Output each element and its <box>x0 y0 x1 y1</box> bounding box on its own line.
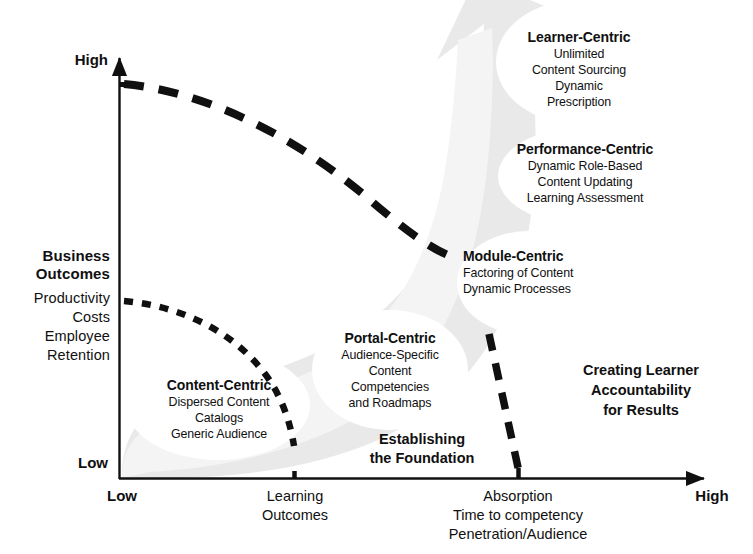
y-axis-sub-retention: Retention <box>14 347 110 363</box>
stage-title-learner-centric: Learner-Centric <box>492 30 666 46</box>
y-axis-high-label: High <box>36 52 108 69</box>
x-tick-label-time-to-competency: Time to competency <box>406 507 630 523</box>
stage-detail-content-centric-2: Catalogs <box>133 412 305 426</box>
stage-detail-content-centric-3: Generic Audience <box>133 428 305 442</box>
x-tick-label-learning: Learning <box>234 488 356 504</box>
phase-creating-line2: Accountability <box>548 382 734 400</box>
stage-detail-learner-centric-3: Dynamic <box>492 80 666 94</box>
stage-title-content-centric: Content-Centric <box>133 378 305 394</box>
phase-creating-line1: Creating Learner <box>548 362 734 380</box>
stage-detail-portal-centric-2: Content <box>314 365 466 379</box>
stage-detail-performance-centric-2: Content Updating <box>494 176 676 190</box>
y-axis-sub-productivity: Productivity <box>14 290 110 306</box>
phase-creating-line3: for Results <box>548 402 734 420</box>
phase-establishing-line1: Establishing <box>358 431 486 449</box>
stage-detail-performance-centric-3: Learning Assessment <box>494 192 676 206</box>
y-axis-title-line2: Outcomes <box>14 266 110 283</box>
y-axis-sub-employee: Employee <box>14 328 110 344</box>
stage-detail-content-centric-1: Dispersed Content <box>133 396 305 410</box>
stage-detail-learner-centric-4: Prescription <box>492 96 666 110</box>
upper-dashed-curve <box>124 84 450 256</box>
x-axis-high-label: High <box>684 488 740 505</box>
stage-detail-portal-centric-4: and Roadmaps <box>314 397 466 411</box>
stage-detail-learner-centric-2: Content Sourcing <box>492 64 666 78</box>
x-tick-label-penetration-audience: Penetration/Audience <box>406 526 630 542</box>
y-axis-title-line1: Business <box>24 248 110 265</box>
stage-title-performance-centric: Performance-Centric <box>494 142 676 158</box>
phase-establishing-line2: the Foundation <box>358 450 486 468</box>
stage-detail-portal-centric-1: Audience-Specific <box>314 349 466 363</box>
x-tick-label-absorption: Absorption <box>406 488 630 504</box>
x-axis-low-label: Low <box>96 488 148 505</box>
stage-detail-module-centric-2: Dynamic Processes <box>463 283 629 297</box>
stage-title-module-centric: Module-Centric <box>463 249 629 265</box>
stage-detail-learner-centric-1: Unlimited <box>492 48 666 62</box>
y-axis-low-label: Low <box>36 455 108 472</box>
stage-detail-module-centric-1: Factoring of Content <box>463 267 629 281</box>
phase-divider-dashed-line <box>489 334 519 472</box>
x-tick-label-outcomes: Outcomes <box>234 507 356 523</box>
stage-detail-performance-centric-1: Dynamic Role-Based <box>494 160 676 174</box>
stage-title-portal-centric: Portal-Centric <box>314 331 466 347</box>
stage-detail-portal-centric-3: Competencies <box>314 381 466 395</box>
diagram-canvas: Business Outcomes Productivity Costs Emp… <box>0 0 753 554</box>
y-axis-sub-costs: Costs <box>14 309 110 325</box>
